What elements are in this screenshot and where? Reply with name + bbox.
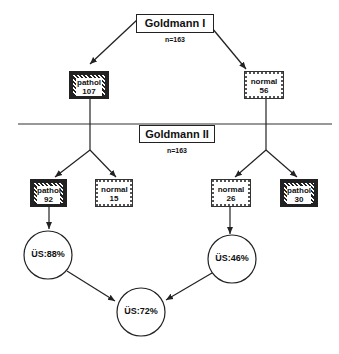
goldmann-1-box: Goldmann I bbox=[136, 14, 214, 33]
node-label: pathol bbox=[76, 78, 102, 87]
goldmann-2-n: n=163 bbox=[152, 147, 202, 154]
goldmann-1-title: Goldmann I bbox=[145, 17, 206, 29]
node-label: normal bbox=[217, 185, 245, 194]
node-value: 26 bbox=[217, 194, 245, 203]
goldmann-2-title: Goldmann II bbox=[145, 128, 209, 140]
node-label: pathol bbox=[37, 186, 60, 195]
node-label: normal bbox=[101, 185, 127, 194]
node-pathol-107: pathol 107 bbox=[70, 72, 108, 98]
node-pathol-30: pathol 30 bbox=[281, 180, 317, 206]
node-value: 56 bbox=[250, 86, 278, 95]
node-pathol-92: pathol 92 bbox=[31, 180, 66, 206]
node-value: 30 bbox=[287, 195, 311, 204]
node-normal-26: normal 26 bbox=[212, 180, 250, 206]
outcome-combined: ÜS:72% bbox=[119, 306, 163, 316]
goldmann-1-n: n=163 bbox=[150, 36, 200, 43]
node-value: 15 bbox=[101, 194, 127, 203]
node-value: 92 bbox=[37, 195, 60, 204]
node-normal-15: normal 15 bbox=[96, 180, 132, 206]
outcome-left: ÜS:88% bbox=[26, 249, 70, 259]
goldmann-2-box: Goldmann II bbox=[139, 125, 215, 143]
node-label: pathol bbox=[287, 186, 311, 195]
diagram-lines bbox=[0, 0, 339, 354]
node-label: normal bbox=[250, 77, 278, 86]
node-value: 107 bbox=[76, 87, 102, 96]
node-normal-56: normal 56 bbox=[245, 72, 283, 98]
outcome-right: ÜS:46% bbox=[210, 253, 254, 263]
